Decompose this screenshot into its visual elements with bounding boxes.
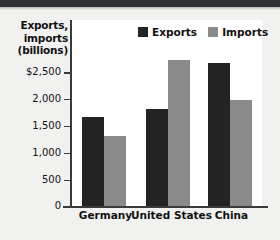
bar-china-imports: [230, 100, 252, 206]
y-tick-mark-0: [64, 206, 70, 207]
bar-china-exports: [208, 63, 230, 206]
bar-germany-imports: [104, 136, 126, 206]
bar-group-china: [208, 20, 255, 206]
bar-germany-exports: [82, 117, 104, 206]
x-tick-label-germany: Germany: [74, 209, 137, 221]
bars-layer: [0, 0, 280, 206]
bar-united-states-imports: [168, 60, 190, 207]
x-axis-line: [63, 206, 268, 208]
bar-united-states-exports: [146, 109, 168, 206]
x-tick-label-united-states: United States: [131, 209, 208, 221]
bar-group-united-states: [146, 20, 193, 206]
x-tick-label-china: China: [200, 209, 263, 221]
bar-group-germany: [82, 20, 129, 206]
chart-figure: Exports, imports (billions) Exports Impo…: [0, 0, 280, 240]
